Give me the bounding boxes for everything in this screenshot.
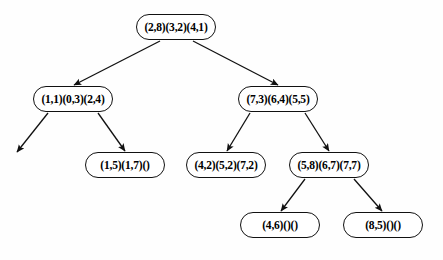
tree-edge — [281, 179, 305, 211]
tree-node-n6[interactable]: (4,6)()() — [240, 212, 320, 238]
tree-edge-dangling — [17, 113, 48, 152]
tree-node-n7[interactable]: (8,5)()() — [343, 212, 423, 238]
tree-node-n3[interactable]: (1,5)(1,7)() — [85, 152, 165, 178]
tree-node-n0[interactable]: (2,8)(3,2)(4,1) — [136, 14, 216, 40]
tree-edge — [193, 41, 278, 85]
tree-node-n2[interactable]: (7,3)(6,4)(5,5) — [238, 86, 318, 112]
tree-node-n1[interactable]: (1,1)(0,3)(2,4) — [33, 86, 113, 112]
tree-edge — [305, 113, 329, 151]
tree-edge — [227, 113, 250, 151]
tree-edge — [98, 113, 125, 151]
tree-edge — [74, 41, 160, 85]
tree-node-n4[interactable]: (4,2)(5,2)(7,2) — [186, 152, 266, 178]
tree-diagram: (2,8)(3,2)(4,1)(1,1)(0,3)(2,4)(7,3)(6,4)… — [0, 0, 443, 260]
tree-edge — [354, 179, 382, 211]
tree-node-n5[interactable]: (5,8)(6,7)(7,7) — [289, 152, 369, 178]
tree-edges — [17, 41, 382, 211]
